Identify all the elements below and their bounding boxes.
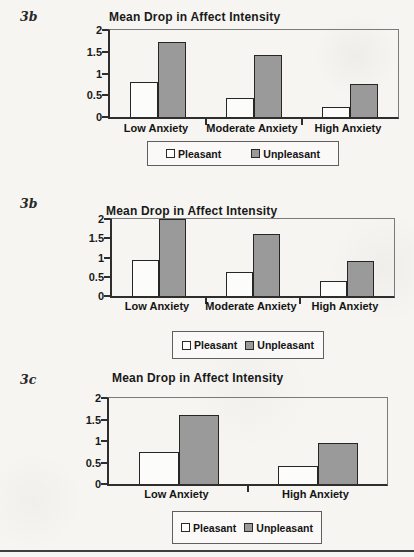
bar-pleasant <box>320 281 347 296</box>
bar-pleasant <box>132 260 159 296</box>
y-tick-mark <box>104 218 110 220</box>
bar-unpleasant <box>179 415 219 484</box>
y-tick-label: 2 <box>70 24 102 36</box>
bar-pleasant <box>139 452 179 484</box>
y-tick-label: 1.5 <box>72 232 104 244</box>
y-tick-label: 1 <box>70 68 102 80</box>
legend-label: Unpleasant <box>257 339 314 351</box>
bar-unpleasant <box>318 443 358 484</box>
y-tick-mark <box>102 29 108 31</box>
legend-entry-pleasant: Pleasant <box>182 339 237 351</box>
y-tick-mark <box>101 419 107 421</box>
legend-entry-unpleasant: Unpleasant <box>245 339 314 351</box>
x-axis-labels: Low AnxietyModerate AnxietyHigh Anxiety <box>108 122 396 136</box>
chart-title: Mean Drop in Affect Intensity <box>109 10 280 24</box>
y-tick-mark <box>101 440 107 442</box>
bar-unpleasant <box>159 219 186 296</box>
y-tick-label: 2 <box>72 213 104 225</box>
bar-pleasant <box>226 98 254 117</box>
pleasant-swatch-icon <box>166 149 175 158</box>
bar-unpleasant <box>347 261 374 296</box>
y-tick-label: 2 <box>69 392 101 404</box>
y-tick-label: 0.5 <box>70 89 102 101</box>
bar-unpleasant <box>350 84 378 117</box>
y-tick-label: 1.5 <box>70 46 102 58</box>
y-tick-mark <box>102 51 108 53</box>
bar-pleasant <box>278 466 318 484</box>
x-axis-labels: Low AnxietyHigh Anxiety <box>107 488 385 502</box>
bar-pleasant <box>130 82 158 117</box>
legend-label: Pleasant <box>193 522 236 534</box>
bar-pleasant <box>226 272 253 296</box>
plot-area: 00.511.52 <box>110 218 395 298</box>
x-category-label: Low Anxiety <box>108 122 204 134</box>
legend-label: Pleasant <box>194 339 237 351</box>
legend: PleasantUnpleasant <box>172 331 324 359</box>
x-category-label: High Anxiety <box>298 300 392 312</box>
x-category-label: Low Anxiety <box>110 300 204 312</box>
figure-3b-top: 3b Mean Drop in Affect Intensity 00.511.… <box>0 3 414 185</box>
y-tick-mark <box>104 257 110 259</box>
legend-entry-unpleasant: Unpleasant <box>251 148 320 160</box>
figure-3c: 3c Mean Drop in Affect Intensity 00.511.… <box>0 362 414 548</box>
legend-entry-unpleasant: Unpleasant <box>244 522 313 534</box>
y-tick-mark <box>104 237 110 239</box>
y-tick-label: 0 <box>72 290 104 302</box>
figure-label: 3c <box>20 372 36 387</box>
bar-unpleasant <box>254 55 282 117</box>
bar-pleasant <box>322 107 350 117</box>
chart-title: Mean Drop in Affect Intensity <box>106 204 277 218</box>
y-tick-label: 0 <box>70 111 102 123</box>
y-tick-mark <box>102 94 108 96</box>
plot-area: 00.511.52 <box>107 397 388 486</box>
x-category-label: High Anxiety <box>300 122 396 134</box>
pleasant-swatch-icon <box>182 341 191 350</box>
legend-label: Unpleasant <box>256 522 313 534</box>
scanned-figure-page: 3b Mean Drop in Affect Intensity 00.511.… <box>0 0 414 557</box>
unpleasant-swatch-icon <box>245 341 254 350</box>
legend: PleasantUnpleasant <box>147 141 339 166</box>
y-tick-mark <box>101 462 107 464</box>
y-tick-label: 0.5 <box>72 271 104 283</box>
y-tick-mark <box>104 295 110 297</box>
legend-label: Pleasant <box>178 148 221 160</box>
x-category-label: Moderate Anxiety <box>204 122 300 134</box>
x-axis-labels: Low AnxietyModerate AnxietyHigh Anxiety <box>110 300 392 314</box>
pleasant-swatch-icon <box>181 523 190 532</box>
x-category-label: Moderate Anxiety <box>204 300 298 312</box>
y-tick-label: 0 <box>69 478 101 490</box>
legend-entry-pleasant: Pleasant <box>166 148 221 160</box>
legend: PleasantUnpleasant <box>172 511 322 544</box>
unpleasant-swatch-icon <box>251 149 260 158</box>
unpleasant-swatch-icon <box>244 523 253 532</box>
legend-entry-pleasant: Pleasant <box>181 522 236 534</box>
plot-area: 00.511.52 <box>108 29 399 119</box>
chart-title: Mean Drop in Affect Intensity <box>112 371 283 385</box>
y-tick-mark <box>101 483 107 485</box>
figure-3b-middle: 3b Mean Drop in Affect Intensity 00.511.… <box>0 185 414 362</box>
y-tick-label: 0.5 <box>69 457 101 469</box>
x-category-label: High Anxiety <box>246 488 385 500</box>
y-tick-mark <box>104 276 110 278</box>
bar-unpleasant <box>158 42 186 117</box>
legend-label: Unpleasant <box>263 148 320 160</box>
y-tick-label: 1.5 <box>69 414 101 426</box>
bar-unpleasant <box>253 234 280 296</box>
y-tick-label: 1 <box>72 252 104 264</box>
y-tick-mark <box>101 397 107 399</box>
y-tick-mark <box>102 73 108 75</box>
figure-label: 3b <box>20 9 37 24</box>
y-tick-mark <box>102 116 108 118</box>
x-category-label: Low Anxiety <box>107 488 246 500</box>
figure-label: 3b <box>20 196 37 211</box>
y-tick-label: 1 <box>69 435 101 447</box>
page-divider-line <box>0 550 414 552</box>
